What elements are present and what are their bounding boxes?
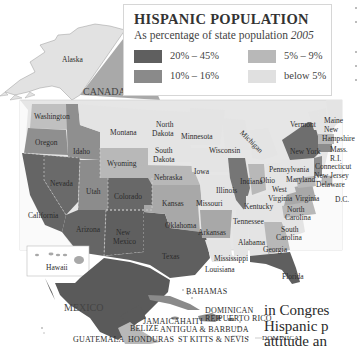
- label-maryland: Maryland: [286, 176, 315, 184]
- legend-label-below-5: below 5%: [284, 71, 344, 82]
- label-oklahoma: Oklahoma: [165, 222, 196, 230]
- label-wyoming: Wyoming: [107, 160, 137, 168]
- label-new-hampshire-2: Hampshire: [322, 135, 355, 143]
- label-tennessee: Tennessee: [233, 218, 264, 226]
- label-iowa: Iowa: [194, 168, 209, 176]
- label-georgia: Georgia: [263, 246, 287, 254]
- label-new-york: New York: [290, 148, 320, 156]
- label-missouri: Missouri: [196, 200, 223, 208]
- label-nevada: Nevada: [50, 180, 73, 188]
- label-st-kitts: ST KITTS & NEVIS: [178, 336, 249, 344]
- label-florida: Florida: [282, 273, 304, 281]
- label-north-dakota-1: North: [156, 121, 174, 129]
- label-texas: Texas: [162, 253, 179, 261]
- label-honduras: HONDURAS: [128, 336, 174, 344]
- label-hawaii: Hawaii: [46, 264, 68, 272]
- label-california: California: [28, 212, 58, 220]
- label-new-hampshire-1: New: [324, 126, 338, 134]
- label-alabama: Alabama: [238, 239, 265, 247]
- legend-swatch-below-5: [248, 70, 276, 83]
- label-alaska: Alaska: [62, 56, 83, 64]
- label-guatemala: GUATEMALA: [73, 336, 125, 344]
- label-wisconsin: Wisconsin: [209, 147, 240, 155]
- body-text-line-2: Hispanic p: [264, 319, 329, 335]
- body-text-fragment: in Congres Hispanic p attitude an: [264, 303, 329, 350]
- label-south-carolina-2: Carolina: [276, 234, 302, 242]
- label-pennsylvania: Pennsylvania: [269, 166, 309, 174]
- label-north-carolina-2: Carolina: [285, 214, 311, 222]
- body-text-line-3: attitude an: [264, 334, 329, 350]
- legend-swatch-20-45: [134, 50, 162, 63]
- label-bahamas: BAHAMAS: [186, 288, 227, 296]
- legend-label-5-9: 5% – 9%: [284, 51, 344, 62]
- label-delaware: Delaware: [316, 181, 345, 189]
- cropped-text-fragments: [350, 0, 362, 100]
- label-vermont: Vermont: [290, 121, 316, 129]
- label-south-dakota-2: Dakota: [153, 156, 175, 164]
- label-arkansas: Arkansas: [198, 229, 226, 237]
- label-arizona: Arizona: [76, 226, 100, 234]
- label-antigua: ANTIGUA & BARBUDA: [160, 326, 249, 334]
- label-new-jersey: New Jersey: [314, 172, 349, 180]
- label-washington: Washington: [34, 113, 70, 121]
- label-montana: Montana: [110, 129, 137, 137]
- label-connecticut: Connecticut: [315, 163, 351, 171]
- label-belize: BELIZE: [130, 325, 159, 333]
- legend-label-20-45: 20% – 45%: [170, 51, 240, 62]
- legend-title: HISPANIC POPULATION: [134, 12, 321, 27]
- label-new-mexico-1: New: [116, 229, 130, 237]
- label-idaho: Idaho: [73, 148, 90, 156]
- label-oregon: Oregon: [35, 139, 58, 147]
- label-mass: Mass.: [330, 146, 348, 154]
- label-ohio: Ohio: [260, 177, 275, 185]
- label-new-mexico-2: Mexico: [113, 238, 136, 246]
- label-illinois: Illinois: [216, 187, 237, 195]
- label-canada: CANADA: [83, 87, 126, 97]
- label-west-virginia-1: West: [272, 186, 287, 194]
- label-maine: Maine: [324, 117, 343, 125]
- body-text-line-1: in Congres: [264, 303, 329, 319]
- legend-swatch-5-9: [248, 50, 276, 63]
- label-louisiana: Louisiana: [205, 266, 235, 274]
- label-mexico: MEXICO: [64, 303, 103, 313]
- label-minnesota: Minnesota: [181, 133, 213, 141]
- label-north-dakota-2: Dakota: [152, 130, 174, 138]
- label-colorado: Colorado: [114, 193, 142, 201]
- legend: HISPANIC POPULATION As percentage of sta…: [123, 4, 332, 96]
- legend-subtitle-text: As percentage of state population: [134, 29, 291, 41]
- label-dc: D.C.: [335, 196, 349, 204]
- label-utah: Utah: [86, 188, 101, 196]
- label-nebraska: Nebraska: [154, 174, 182, 182]
- label-south-dakota-1: South: [155, 147, 173, 155]
- legend-subtitle-year: 2005: [291, 29, 314, 41]
- label-virginia: Virginia: [295, 195, 319, 203]
- legend-label-10-16: 10% – 16%: [170, 71, 240, 82]
- label-kentucky: Kentucky: [244, 203, 273, 211]
- legend-swatch-10-16: [134, 70, 162, 83]
- label-kansas: Kansas: [162, 200, 184, 208]
- label-mississippi: Mississippi: [214, 255, 248, 263]
- legend-subtitle: As percentage of state population 2005: [134, 30, 321, 42]
